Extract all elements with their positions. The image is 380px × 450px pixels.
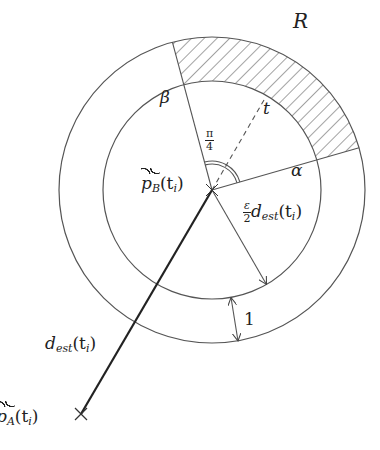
unit-gap-value: 1 xyxy=(244,309,255,329)
angle-pi-over-4-label: π 4 xyxy=(205,128,214,152)
pb-main: p xyxy=(141,173,152,193)
unit-gap-label: 1 xyxy=(244,311,255,328)
angle-denominator: 4 xyxy=(206,141,213,153)
pa-sub: A xyxy=(7,415,15,428)
distance-line xyxy=(81,190,212,414)
pb-close: ) xyxy=(177,173,184,193)
unit-gap-arrow xyxy=(231,298,238,342)
radius-sub: est xyxy=(262,210,279,223)
pa-arg: (t xyxy=(15,406,28,426)
pb-label: pB(ti) xyxy=(141,175,184,194)
pa-label: pA(ti) xyxy=(0,408,38,427)
diagram-canvas xyxy=(0,0,380,450)
radius-label: ε 2 dest(ti) xyxy=(243,200,302,224)
dest-sub: est xyxy=(56,342,73,355)
pa-close: ) xyxy=(32,406,39,426)
radius-numerator: ε xyxy=(243,200,251,213)
radius-arg: (t xyxy=(278,201,291,221)
beta-label: β xyxy=(160,89,170,106)
pb-sub: B xyxy=(152,182,160,195)
radius-close: ) xyxy=(295,201,302,221)
pb-arg: (t xyxy=(160,173,173,193)
dest-close: ) xyxy=(89,333,96,353)
alpha-label: α xyxy=(291,162,302,179)
radius-d: d xyxy=(251,201,262,221)
pb-cross-marker-icon xyxy=(206,184,218,196)
region-r-label: R xyxy=(293,11,308,31)
pa-cross-marker-icon xyxy=(75,408,87,420)
t-label: t xyxy=(263,100,270,117)
dest-d: d xyxy=(45,333,56,353)
alpha-boundary-line xyxy=(212,148,359,190)
pa-main: p xyxy=(0,406,7,426)
radius-denominator: 2 xyxy=(243,213,250,225)
distance-label: dest(ti) xyxy=(45,335,96,354)
dest-arg: (t xyxy=(72,333,85,353)
angle-numerator: π xyxy=(205,128,214,141)
